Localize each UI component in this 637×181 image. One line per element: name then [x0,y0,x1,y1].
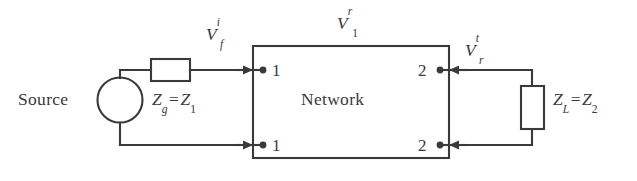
source-label: Source [18,91,68,109]
zl-rhs-sub: 2 [592,103,598,115]
wire-port2-to-load-bottom [466,129,532,145]
vfi-base: V [206,24,217,44]
port1-top-terminal-dot [260,67,267,74]
generator-impedance-label: Zg=Z1 [152,91,196,109]
v1r-sup: r [348,5,353,17]
incident-voltage-label: Vif [206,26,223,44]
port-label-1-bottom: 1 [272,137,281,154]
port-label-2-bottom: 2 [418,137,427,154]
port-label-1-top: 1 [272,62,281,79]
zl-sub: L [563,103,569,115]
vfi-sub: f [220,38,223,50]
zg-sub: g [162,103,168,115]
zg-rhs-sub: 1 [190,103,196,115]
zl-base: Z [553,89,563,109]
v1r-sub: 1 [352,27,358,39]
wire-port2-to-load-top [466,70,532,86]
transmitted-voltage-label: Vtr [465,42,483,60]
port1-top-arrowhead [243,66,253,75]
zg-rhs-base: Z [180,89,190,109]
source-circle-icon [98,78,143,123]
port-label-2-top: 2 [418,62,427,79]
vrt-base: V [465,40,476,60]
port2-top-arrowhead [449,66,459,75]
vrt-sup: t [476,32,479,44]
generator-impedance-symbol [151,59,190,81]
load-impedance-symbol [521,86,544,129]
reflected-voltage-label: Vr1 [337,15,358,33]
network-label: Network [301,91,364,109]
vfi-sup: i [217,16,220,28]
v1r-base: V [337,13,348,33]
load-impedance-label: ZL=Z2 [553,91,598,109]
port2-top-terminal-dot [437,67,444,74]
zg-equals: = [168,89,181,109]
port2-bottom-arrowhead [449,141,459,150]
circuit-figure: Source Network Zg=Z1 ZL=Z2 Vif Vr1 Vtr 1… [0,0,637,181]
port1-bottom-terminal-dot [260,142,267,149]
port1-bottom-arrowhead [243,141,253,150]
vrt-sub: r [479,54,484,66]
zl-equals: = [569,89,582,109]
zg-base: Z [152,89,162,109]
port2-bottom-terminal-dot [437,142,444,149]
zl-rhs-base: Z [582,89,592,109]
